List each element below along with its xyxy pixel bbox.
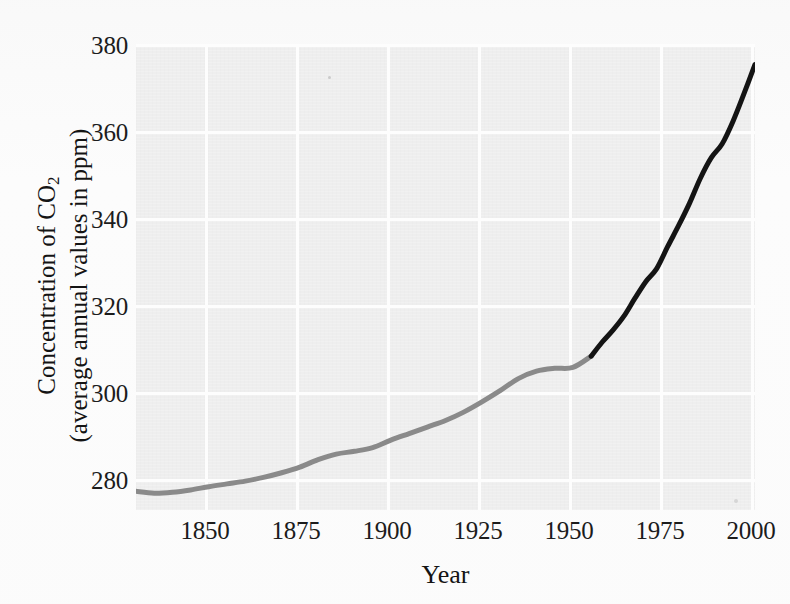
- y-tick-280: 280: [66, 468, 128, 493]
- series-mauna-loa-line: [591, 65, 755, 357]
- plot-area: [136, 44, 755, 510]
- scan-speck: [328, 76, 331, 79]
- y-axis-title: Concentration of CO2 (average annual val…: [32, 106, 93, 466]
- y-axis-title-line1: Concentration of CO2: [33, 177, 60, 395]
- y-tick-380: 380: [66, 33, 128, 58]
- y-axis-title-line2: (average annual values in ppm): [64, 106, 94, 466]
- x-axis-tick-labels: 1850 1875 1900 1925 1950 1975 2000: [136, 518, 755, 552]
- co2-subscript: 2: [44, 177, 63, 186]
- x-tick-2000: 2000: [696, 518, 790, 543]
- co2-concentration-figure: 380 360 340 320 300 280 1850 1875 1900 1…: [0, 0, 790, 604]
- scan-speck: [734, 499, 738, 503]
- x-axis-title: Year: [136, 560, 755, 590]
- series-ice-core-line: [136, 356, 591, 493]
- co2-curve: [136, 44, 755, 510]
